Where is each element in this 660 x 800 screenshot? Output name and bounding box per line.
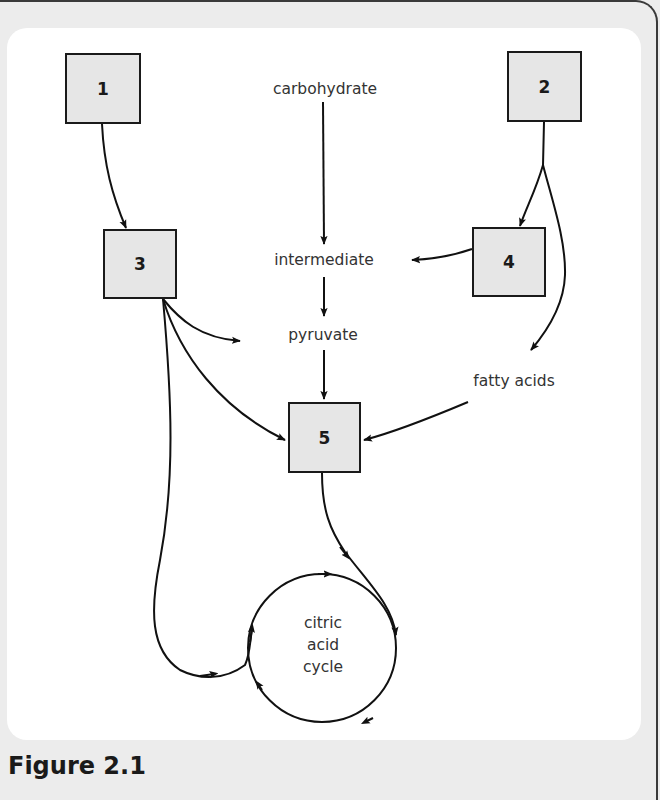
box-2: 2: [507, 51, 582, 122]
label-carbohydrate: carbohydrate: [273, 80, 377, 98]
box-4: 4: [472, 227, 546, 297]
arrow-3-to-cycle: [154, 299, 252, 677]
box-3: 3: [103, 229, 177, 299]
arrow-carbohydrate-to-intermediate: [323, 102, 324, 244]
figure-caption: Figure 2.1: [8, 752, 146, 780]
arrow-2-to-4: [520, 122, 544, 226]
arrow-fatty-acids-to-5: [364, 402, 468, 440]
arrow-4-to-intermediate: [412, 249, 472, 260]
box-5: 5: [288, 402, 361, 473]
arrow-3-to-pyruvate: [163, 299, 240, 341]
box-4-label: 4: [503, 252, 515, 272]
cycle-line-1: citric: [303, 612, 343, 634]
label-citric-acid-cycle: citric acid cycle: [303, 612, 343, 678]
box-3-label: 3: [134, 254, 146, 274]
label-intermediate: intermediate: [274, 251, 374, 269]
box-5-label: 5: [319, 428, 331, 448]
box-1-label: 1: [97, 79, 109, 99]
arrow-3-to-cycle-mid-1: [200, 674, 214, 676]
box-2-label: 2: [539, 77, 551, 97]
label-pyruvate: pyruvate: [288, 326, 358, 344]
label-fatty-acids: fatty acids: [473, 372, 554, 390]
arrow-1-to-3: [102, 124, 126, 228]
arrow-3-to-5: [163, 299, 285, 440]
box-1: 1: [65, 53, 141, 124]
cycle-line-3: cycle: [303, 656, 343, 678]
cycle-line-2: acid: [303, 634, 343, 656]
